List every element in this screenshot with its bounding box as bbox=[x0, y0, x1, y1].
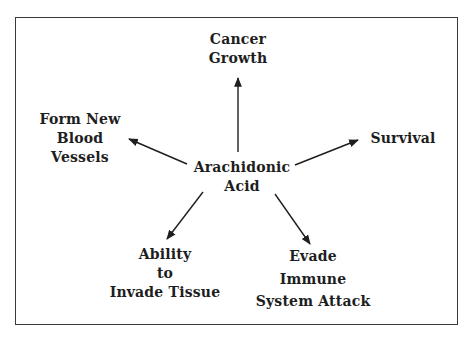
effect-label-line: Form New bbox=[20, 110, 140, 129]
effect-node-invade-tissue: Ability to Invade Tissue bbox=[100, 245, 230, 302]
effect-label-line: Survival bbox=[358, 129, 448, 148]
center-label-line-2: Acid bbox=[182, 177, 302, 196]
arrow-to-invade-tissue bbox=[167, 192, 203, 239]
effect-label-line: Invade Tissue bbox=[100, 283, 230, 302]
effect-label-line: to bbox=[100, 264, 230, 283]
effect-node-survival: Survival bbox=[358, 129, 448, 148]
effect-label-line: Blood bbox=[20, 129, 140, 148]
arrow-to-survival bbox=[295, 140, 358, 165]
effect-label-line: Cancer bbox=[178, 30, 298, 49]
effect-node-evade-immune-system-attack: Evade Immune System Attack bbox=[243, 245, 383, 313]
arrow-to-evade-immune bbox=[275, 194, 310, 244]
center-label-line-1: Arachidonic bbox=[182, 158, 302, 177]
effect-label-line: System Attack bbox=[243, 290, 383, 313]
effect-label-line: Evade bbox=[243, 245, 383, 268]
effect-label-line: Immune bbox=[243, 268, 383, 291]
effect-node-cancer-growth: Cancer Growth bbox=[178, 30, 298, 68]
effect-label-line: Growth bbox=[178, 49, 298, 68]
effect-label-line: Vessels bbox=[20, 148, 140, 167]
effect-label-line: Ability bbox=[100, 245, 230, 264]
center-node-arachidonic-acid: Arachidonic Acid bbox=[182, 158, 302, 196]
effect-node-form-new-blood-vessels: Form New Blood Vessels bbox=[20, 110, 140, 167]
